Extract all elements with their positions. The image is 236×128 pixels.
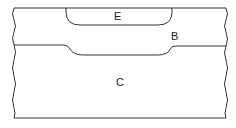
label-e: E — [114, 11, 121, 22]
region-b-c-boundary — [14, 45, 226, 55]
label-b: B — [171, 31, 178, 42]
label-c: C — [116, 77, 124, 88]
right-break-line — [225, 8, 228, 118]
left-break-line — [13, 8, 16, 118]
